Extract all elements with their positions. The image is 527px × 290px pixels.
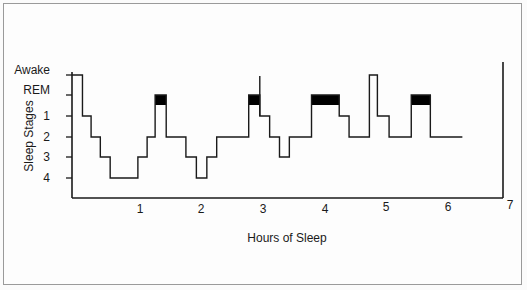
rem-blocks [155, 95, 430, 105]
hypnogram-plot [0, 0, 527, 290]
y-tick-stage-4: 4 [0, 172, 50, 184]
y-axis-label: Sleep Stages [22, 100, 36, 171]
x-tick-6: 6 [438, 201, 458, 213]
rem-block [312, 95, 340, 105]
x-tick-3: 3 [253, 203, 273, 215]
y-tick-rem: REM [0, 84, 50, 96]
x-tick-5: 5 [376, 201, 396, 213]
rem-block [249, 95, 260, 105]
x-tick-1: 1 [130, 203, 150, 215]
x-tick-7: 7 [500, 199, 520, 211]
x-axis-label: Hours of Sleep [247, 231, 326, 245]
x-tick-2: 2 [191, 203, 211, 215]
y-tick-awake: Awake [0, 64, 50, 76]
sleep-stage-trace [72, 75, 462, 178]
rem-block [155, 95, 166, 105]
x-tick-4: 4 [315, 203, 335, 215]
rem-block [411, 95, 430, 105]
